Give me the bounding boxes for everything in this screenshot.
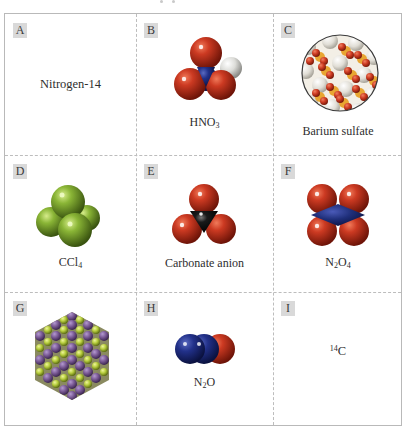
formula-text: O (338, 255, 347, 269)
carbonate-anion-molecule-icon (171, 183, 237, 249)
cell-label-badge: C (281, 23, 295, 38)
carbon-tetrachloride-molecule-icon (35, 182, 105, 252)
cell-label-badge: B (144, 23, 158, 38)
formula-text: N (325, 255, 334, 269)
cell-label-badge: I (281, 301, 295, 316)
species-grid: A Nitrogen-14 B HNO3 (4, 13, 402, 426)
cell-d: D CCl4 (5, 155, 136, 292)
cell-f: F N2O4 (273, 155, 403, 292)
cell-caption: CCl4 (5, 255, 136, 270)
dinitrogen-tetroxide-molecule-icon (305, 182, 371, 248)
formula-text: HNO (190, 115, 216, 129)
cell-e: E Carbonate anion (136, 155, 273, 292)
cell-c: C (273, 14, 403, 155)
cell-i: I 14C (273, 292, 403, 425)
formula-subscript: 4 (78, 261, 82, 270)
cell-b: B HNO3 (136, 14, 273, 155)
formula-subscript: 3 (216, 121, 220, 130)
ionic-crystal-lattice-icon (33, 310, 111, 402)
cell-label-badge: E (144, 164, 158, 179)
cropped-heading-fragment (150, 0, 210, 4)
cell-g: G (5, 292, 136, 425)
cell-a: A Nitrogen-14 (5, 14, 136, 155)
nitrous-oxide-molecule-icon (174, 332, 236, 366)
formula-subscript: 4 (347, 261, 351, 270)
formula-text: O (207, 375, 216, 389)
nitric-acid-molecule-icon (173, 35, 243, 107)
cell-caption: 14C (273, 344, 403, 359)
cell-label-badge: D (13, 164, 27, 179)
cell-caption: N2O4 (273, 255, 403, 270)
cell-caption: N2O (136, 375, 273, 390)
cell-h: H N2O (136, 292, 273, 425)
cell-label-badge: H (144, 301, 158, 316)
isotope-mass-number: 14 (330, 344, 338, 353)
cell-label-badge: A (13, 23, 27, 38)
formula-text: N (194, 375, 203, 389)
cell-caption: Nitrogen-14 (5, 77, 136, 92)
cell-caption: Carbonate anion (136, 256, 273, 271)
barium-sulfate-lattice-icon (300, 33, 380, 113)
cell-caption: Barium sulfate (273, 124, 403, 139)
cell-label-badge: G (13, 301, 27, 316)
element-symbol: C (338, 344, 346, 358)
cell-caption: HNO3 (136, 115, 273, 130)
formula-text: CCl (59, 255, 78, 269)
cell-label-badge: F (281, 164, 295, 179)
